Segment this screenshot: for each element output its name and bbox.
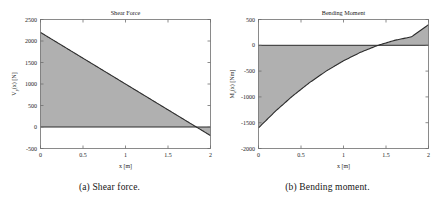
y-tick-label: 0 (34, 124, 37, 130)
caption-shear-force: (a) Shear force. (0, 182, 219, 192)
area-fill (259, 25, 429, 128)
x-tick-label: 1.5 (382, 152, 390, 158)
y-axis-label: Vy(x) [N] (11, 72, 19, 95)
figure-page: -5000500100015002000250000.511.52Shear F… (0, 0, 437, 207)
x-tick-label: 1 (342, 152, 345, 158)
x-tick-label: 0 (257, 152, 260, 158)
shear-force-svg: -5000500100015002000250000.511.52Shear F… (0, 2, 219, 178)
figure-bending-moment: -2000-1500-1000-500050000.511.52Bending … (218, 0, 437, 207)
figure-shear-force: -5000500100015002000250000.511.52Shear F… (0, 0, 219, 207)
bending-moment-svg: -2000-1500-1000-500050000.511.52Bending … (218, 2, 437, 178)
y-tick-label: 500 (28, 103, 37, 109)
y-tick-label: 2500 (25, 17, 37, 23)
x-tick-label: 0.5 (79, 152, 87, 158)
y-tick-label: -1500 (241, 120, 255, 126)
x-tick-label: 0.5 (297, 152, 305, 158)
x-axis-label: x [m] (337, 163, 350, 170)
y-tick-label: 2000 (25, 38, 37, 44)
chart-title: Bending Moment (322, 9, 366, 16)
y-tick-label: -2000 (241, 146, 255, 152)
x-tick-label: 2 (209, 152, 212, 158)
y-tick-label: -500 (244, 68, 255, 74)
y-tick-label: 500 (246, 17, 255, 23)
x-tick-label: 2 (427, 152, 430, 158)
chart-title: Shear Force (111, 9, 141, 16)
plot-bending-moment: -2000-1500-1000-500050000.511.52Bending … (218, 2, 437, 178)
y-tick-label: -1000 (241, 94, 255, 100)
plot-shear-force: -5000500100015002000250000.511.52Shear F… (0, 2, 219, 178)
y-tick-label: -500 (26, 146, 37, 152)
y-tick-label: 1500 (25, 60, 37, 66)
x-tick-label: 1.5 (164, 152, 172, 158)
x-axis-label: x [m] (119, 163, 132, 170)
y-axis-label: Mz(x) [Nm] (229, 70, 237, 99)
x-tick-label: 1 (124, 152, 127, 158)
x-tick-label: 0 (39, 152, 42, 158)
caption-bending-moment: (b) Bending moment. (218, 182, 437, 192)
y-tick-label: 0 (252, 42, 255, 48)
y-tick-label: 1000 (25, 81, 37, 87)
